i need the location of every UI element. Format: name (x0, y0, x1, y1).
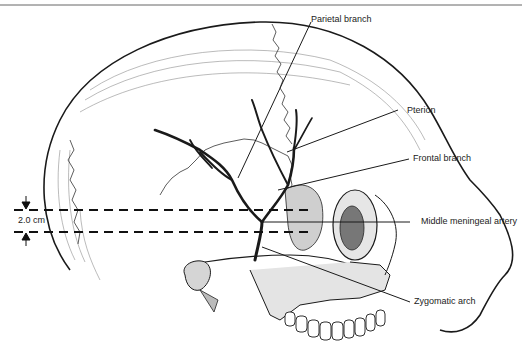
sphenoid-wing (285, 185, 323, 250)
leader-lines (238, 22, 410, 302)
orbit-inner (340, 206, 364, 250)
middle-meningeal-artery (155, 100, 312, 260)
measurement-label: 2.0 cm (18, 215, 45, 225)
lambdoid-suture (68, 140, 80, 244)
teeth (285, 310, 385, 340)
measurement-lines (14, 210, 310, 232)
skull-diagram (0, 0, 522, 360)
label-middle-meningeal-artery: Middle meningeal artery (421, 216, 517, 226)
label-frontal-branch: Frontal branch (413, 153, 471, 163)
label-zygomatic-arch: Zygomatic arch (414, 296, 476, 306)
label-pterion: Pterion (407, 105, 436, 115)
label-parietal-branch: Parietal branch (311, 14, 372, 24)
squamosal-suture (160, 139, 292, 195)
ear-opening (184, 261, 210, 290)
maxilla (250, 262, 390, 320)
nasal-profile (375, 195, 396, 275)
mastoid-process (200, 290, 218, 312)
